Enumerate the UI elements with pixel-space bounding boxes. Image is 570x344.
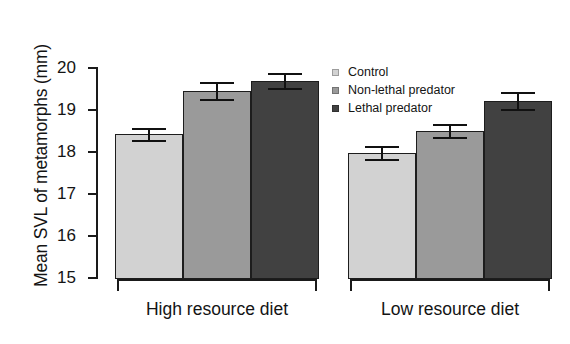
y-tick-mark-15 — [88, 277, 96, 279]
legend: Control Non-lethal predator Lethal preda… — [332, 64, 455, 118]
bar-high-lethal — [251, 81, 319, 279]
bar-high-nonlethal — [183, 91, 251, 279]
legend-item-control: Control — [332, 64, 455, 80]
legend-label-lethal: Lethal predator — [348, 102, 432, 115]
y-tick-label-20: 20 — [42, 59, 76, 76]
legend-swatch-lethal-icon — [332, 105, 339, 112]
errorbar-low-lethal-cap-top — [501, 92, 535, 94]
y-tick-label-15: 15 — [42, 269, 76, 286]
errorbar-low-control-cap-bottom — [365, 159, 399, 161]
legend-item-nonlethal: Non-lethal predator — [332, 82, 455, 98]
errorbar-high-control-cap-top — [132, 128, 166, 130]
y-tick-label-19: 19 — [42, 101, 76, 118]
bar-low-nonlethal — [416, 131, 484, 279]
legend-label-control: Control — [348, 66, 388, 79]
bar-low-lethal — [484, 101, 552, 279]
y-tick-mark-20 — [88, 67, 96, 69]
errorbar-high-nonlethal-cap-top — [200, 82, 234, 84]
y-tick-mark-18 — [88, 151, 96, 153]
group-label-high: High resource diet — [117, 299, 317, 320]
y-axis-spine — [96, 67, 98, 279]
errorbar-high-control-cap-bottom — [132, 140, 166, 142]
legend-label-nonlethal: Non-lethal predator — [348, 84, 455, 97]
bar-high-control — [115, 134, 183, 279]
errorbar-low-nonlethal-cap-top — [433, 124, 467, 126]
errorbar-high-lethal-cap-top — [268, 73, 302, 75]
errorbar-low-control-cap-top — [365, 146, 399, 148]
errorbar-high-nonlethal-line — [216, 82, 218, 100]
y-tick-mark-16 — [88, 235, 96, 237]
group-bracket-low — [350, 279, 550, 291]
legend-swatch-nonlethal-icon — [332, 87, 339, 94]
errorbar-low-nonlethal-cap-bottom — [433, 137, 467, 139]
group-bracket-high — [117, 279, 317, 291]
bar-low-control — [348, 153, 416, 279]
legend-swatch-control-icon — [332, 69, 339, 76]
errorbar-low-lethal-cap-bottom — [501, 109, 535, 111]
bar-chart: Mean SVL of metamorphs (mm) 20 19 18 17 … — [0, 0, 570, 344]
legend-item-lethal: Lethal predator — [332, 100, 455, 116]
y-tick-label-18: 18 — [42, 143, 76, 160]
errorbar-high-lethal-cap-bottom — [268, 88, 302, 90]
errorbar-high-nonlethal-cap-bottom — [200, 99, 234, 101]
group-label-low: Low resource diet — [350, 299, 550, 320]
errorbar-low-control-line — [381, 146, 383, 160]
y-tick-label-17: 17 — [42, 185, 76, 202]
y-tick-label-16: 16 — [42, 227, 76, 244]
y-tick-mark-19 — [88, 109, 96, 111]
errorbar-low-nonlethal-line — [449, 124, 451, 138]
errorbar-high-lethal-line — [284, 73, 286, 89]
errorbar-low-lethal-line — [517, 92, 519, 110]
y-tick-mark-17 — [88, 193, 96, 195]
